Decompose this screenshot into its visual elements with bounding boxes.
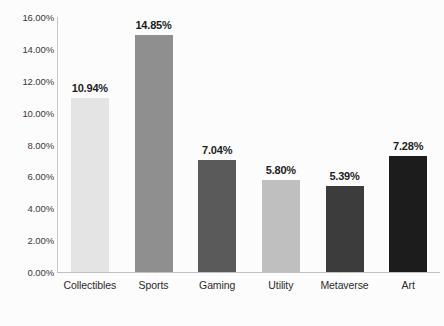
x-axis-category-label: Utility <box>249 279 313 291</box>
y-axis-tick-label: 12.00% <box>2 75 54 86</box>
x-axis-category-label: Art <box>376 279 440 291</box>
bar-chart: 0.00%2.00%4.00%6.00%8.00%10.00%12.00%14.… <box>0 0 444 326</box>
y-axis-tick-label: 16.00% <box>2 12 54 23</box>
y-axis-tick-label: 10.00% <box>2 107 54 118</box>
x-axis-category-label: Collectibles <box>58 279 122 291</box>
y-axis-tick-label: 4.00% <box>2 203 54 214</box>
x-axis-category-label: Metaverse <box>313 279 377 291</box>
y-axis-tick-label: 8.00% <box>2 139 54 150</box>
y-axis-tick-label: 6.00% <box>2 171 54 182</box>
x-axis: CollectiblesSportsGamingUtilityMetaverse… <box>58 0 440 326</box>
y-axis-tick-label: 0.00% <box>2 267 54 278</box>
x-axis-category-label: Gaming <box>185 279 249 291</box>
y-axis-tick-label: 14.00% <box>2 43 54 54</box>
y-axis: 0.00%2.00%4.00%6.00%8.00%10.00%12.00%14.… <box>0 0 54 326</box>
x-axis-category-label: Sports <box>122 279 186 291</box>
y-axis-tick-label: 2.00% <box>2 235 54 246</box>
